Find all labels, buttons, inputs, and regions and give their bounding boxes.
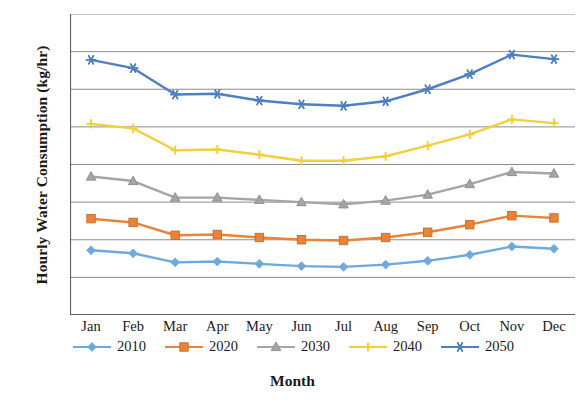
data-point-marker <box>213 257 222 266</box>
square-marker <box>381 233 389 241</box>
square-marker <box>508 211 516 219</box>
legend-label-2020: 2020 <box>209 338 238 355</box>
data-point-marker <box>423 85 433 94</box>
data-point-marker <box>255 259 264 268</box>
data-point-marker <box>339 236 347 244</box>
data-point-marker <box>455 342 465 351</box>
series-line-2040 <box>91 119 554 160</box>
diamond-marker <box>129 249 138 258</box>
legend-swatch-2020 <box>163 340 205 354</box>
diamond-marker <box>171 258 180 267</box>
data-point-marker <box>466 221 474 229</box>
diamond-marker <box>88 342 97 351</box>
data-point-marker <box>381 260 390 269</box>
data-point-marker <box>507 115 516 124</box>
square-marker <box>297 236 305 244</box>
data-point-marker <box>465 250 474 259</box>
chart-container: Hourly Water Consumption (kg/hr) 4540353… <box>0 0 585 401</box>
legend-label-2040: 2040 <box>393 338 422 355</box>
series-line-2050 <box>91 55 554 106</box>
data-point-marker <box>550 244 559 253</box>
data-point-marker <box>171 231 179 239</box>
data-point-marker <box>212 89 222 98</box>
data-point-marker <box>297 156 306 165</box>
square-marker <box>213 230 221 238</box>
plot-area <box>70 14 575 315</box>
data-point-marker <box>549 55 559 64</box>
diamond-marker <box>255 259 264 268</box>
data-point-marker <box>423 141 432 150</box>
diamond-marker <box>550 244 559 253</box>
legend-swatch-2040 <box>347 340 389 354</box>
data-point-marker <box>465 130 474 139</box>
legend-label-2050: 2050 <box>485 338 514 355</box>
data-point-marker <box>363 342 372 351</box>
legend-item-2040[interactable]: 2040 <box>347 338 422 355</box>
data-point-marker <box>296 100 306 109</box>
diamond-marker <box>465 250 474 259</box>
data-point-marker <box>338 101 348 110</box>
data-point-marker <box>255 233 263 241</box>
square-marker <box>550 214 558 222</box>
legend-label-2010: 2010 <box>117 338 146 355</box>
data-point-marker <box>297 262 306 271</box>
legend-item-2030[interactable]: 2030 <box>255 338 330 355</box>
series-line-2020 <box>91 216 554 241</box>
diamond-marker <box>339 262 348 271</box>
square-marker <box>129 218 137 226</box>
data-point-marker <box>255 150 264 159</box>
data-point-marker <box>339 156 348 165</box>
data-point-marker <box>465 70 475 79</box>
data-point-marker <box>549 119 558 128</box>
data-point-marker <box>254 96 264 105</box>
square-marker <box>180 342 188 350</box>
data-point-marker <box>380 97 390 106</box>
square-marker <box>466 221 474 229</box>
diamond-marker <box>87 246 96 255</box>
data-point-marker <box>180 342 188 350</box>
data-point-marker <box>507 242 516 251</box>
data-point-marker <box>171 146 180 155</box>
legend-item-2020[interactable]: 2020 <box>163 338 238 355</box>
diamond-marker <box>213 257 222 266</box>
chart-legend: 20102020203020402050 <box>0 338 585 355</box>
data-point-marker <box>87 246 96 255</box>
square-marker <box>255 233 263 241</box>
data-point-marker <box>129 249 138 258</box>
x-axis-title: Month <box>0 372 585 390</box>
data-point-marker <box>297 236 305 244</box>
series-line-2030 <box>91 172 554 204</box>
data-point-marker <box>88 342 97 351</box>
data-point-marker <box>213 145 222 154</box>
square-marker <box>171 231 179 239</box>
square-marker <box>424 228 432 236</box>
data-point-marker <box>381 152 390 161</box>
legend-label-2030: 2030 <box>301 338 330 355</box>
data-point-marker <box>87 214 95 222</box>
diamond-marker <box>507 242 516 251</box>
plot-svg <box>70 14 575 315</box>
data-point-marker <box>86 55 96 64</box>
data-point-marker <box>508 211 516 219</box>
legend-item-2010[interactable]: 2010 <box>71 338 146 355</box>
square-marker <box>339 236 347 244</box>
legend-item-2050[interactable]: 2050 <box>439 338 514 355</box>
data-point-marker <box>424 228 432 236</box>
square-marker <box>87 214 95 222</box>
data-point-marker <box>213 230 221 238</box>
data-point-marker <box>381 233 389 241</box>
data-point-marker <box>423 256 432 265</box>
legend-swatch-2010 <box>71 340 113 354</box>
x-tick-label-dec: Dec <box>526 318 582 335</box>
data-point-marker <box>550 214 558 222</box>
legend-swatch-2030 <box>255 340 297 354</box>
legend-swatch-2050 <box>439 340 481 354</box>
data-point-marker <box>129 124 138 133</box>
data-point-marker <box>171 258 180 267</box>
diamond-marker <box>381 260 390 269</box>
data-point-marker <box>129 218 137 226</box>
y-axis-title: Hourly Water Consumption (kg/hr) <box>33 5 51 325</box>
data-point-marker <box>339 262 348 271</box>
diamond-marker <box>297 262 306 271</box>
series-line-2010 <box>91 247 554 267</box>
